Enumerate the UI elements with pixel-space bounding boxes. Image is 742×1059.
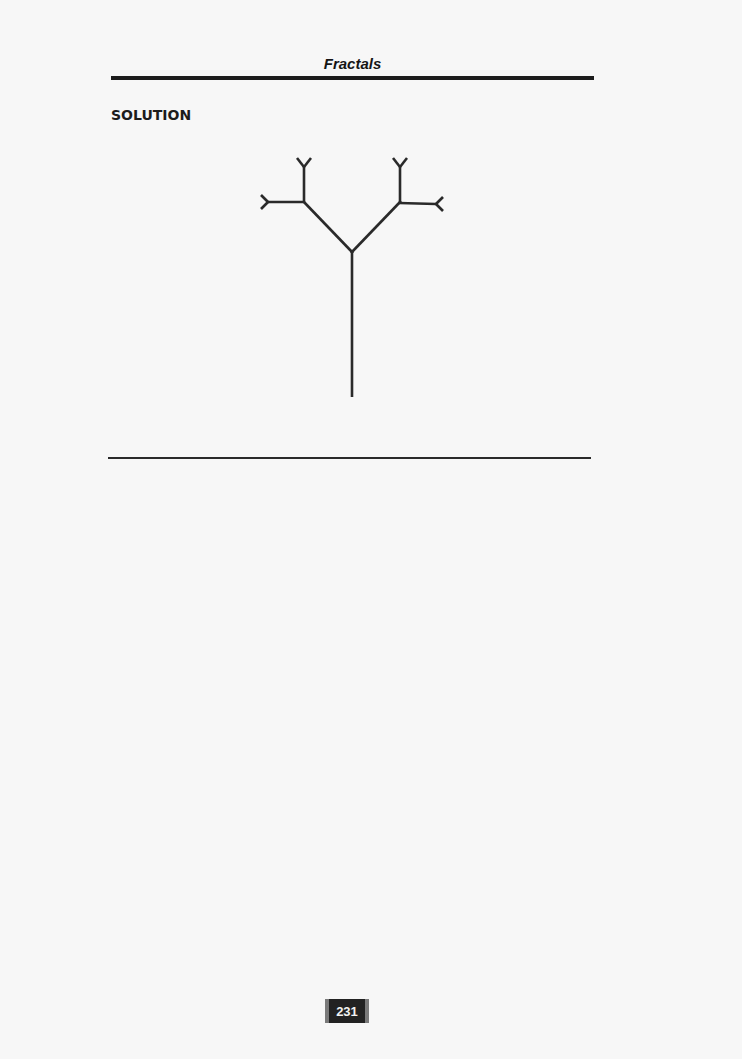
branch-right-right <box>399 203 436 204</box>
tip <box>261 195 268 202</box>
tip <box>400 158 407 167</box>
tip <box>304 158 311 167</box>
fractal-tree-figure <box>0 0 742 1059</box>
header-rule <box>111 76 594 80</box>
section-label: SOLUTION <box>111 107 191 123</box>
tip <box>297 158 304 167</box>
branch-right <box>351 201 401 253</box>
page-number: 231 <box>329 999 365 1023</box>
tip <box>393 158 400 167</box>
section-end-rule <box>108 457 591 459</box>
tip <box>436 197 443 204</box>
tip <box>261 202 268 209</box>
running-head: Fractals <box>111 55 594 72</box>
tip <box>436 204 443 211</box>
branch-left <box>303 201 353 253</box>
